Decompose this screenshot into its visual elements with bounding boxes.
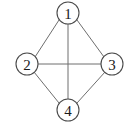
node-1[interactable]: 1	[57, 2, 79, 24]
node-4[interactable]: 4	[57, 99, 79, 121]
edges-layer	[34, 20, 105, 103]
edge-2-4	[34, 72, 59, 103]
edge-1-2	[35, 20, 59, 57]
node-label-2: 2	[23, 57, 31, 73]
node-label-1: 1	[64, 6, 72, 22]
edge-1-3	[77, 20, 104, 57]
node-label-4: 4	[64, 103, 72, 119]
graph-diagram: 1234	[0, 0, 130, 125]
nodes-layer: 1234	[16, 2, 123, 121]
node-2[interactable]: 2	[16, 53, 38, 75]
node-label-3: 3	[108, 57, 116, 73]
graph-canvas: 1234	[0, 0, 130, 125]
edge-3-4	[77, 72, 105, 103]
node-3[interactable]: 3	[101, 53, 123, 75]
